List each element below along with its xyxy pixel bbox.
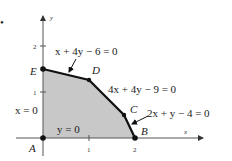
equation-ed: x + 4y − 6 = 0 [55, 45, 118, 57]
vertex-b [132, 135, 138, 141]
pointer-ed [69, 59, 76, 72]
equation-y0: y = 0 [57, 123, 80, 135]
list-bullet: • [0, 16, 4, 28]
vertex-a [40, 135, 46, 141]
equation-cb: 2x + y − 4 = 0 [147, 107, 210, 119]
vertex-label-a: A [28, 142, 36, 154]
feasible-region-diagram: • y x 1 2 1 2 A B C D E x + 4y − 6 = 0 4… [0, 0, 232, 161]
equation-x0: x = 0 [15, 104, 38, 116]
vertex-label-b: B [141, 125, 148, 137]
x-tick-label-1: 1 [87, 146, 91, 154]
x-tick-label-2: 2 [133, 146, 137, 154]
vertex-label-e: E [29, 65, 37, 77]
pointer-cb [132, 116, 148, 124]
y-tick-label-2: 2 [33, 43, 37, 51]
vertex-d [87, 78, 91, 82]
vertex-c [122, 113, 126, 117]
vertex-label-c: C [130, 103, 138, 115]
y-axis-label: y [49, 14, 54, 22]
vertex-label-d: D [91, 64, 100, 76]
y-tick-label-1: 1 [33, 89, 37, 97]
x-axis-label: x [183, 128, 188, 136]
vertex-e [40, 66, 46, 72]
equation-dc: 4x + 4y − 9 = 0 [108, 83, 177, 95]
